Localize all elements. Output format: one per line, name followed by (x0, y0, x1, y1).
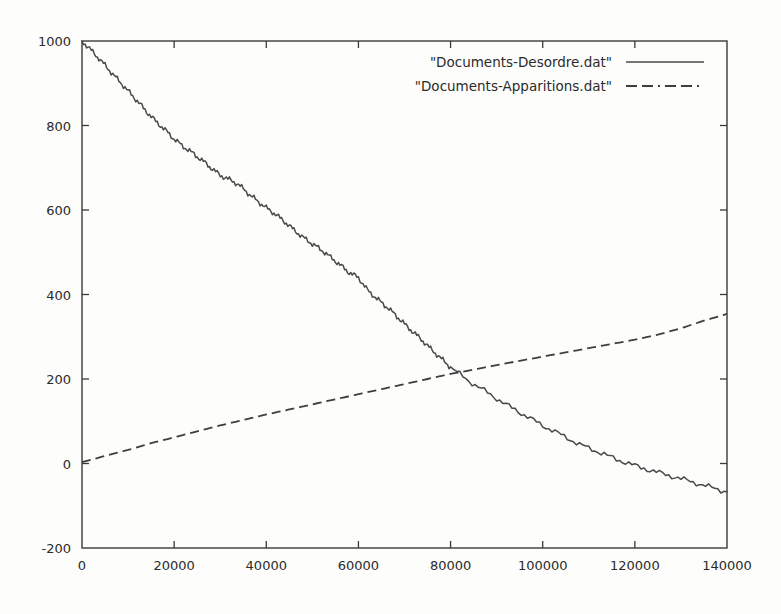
x-tick-label-80000: 80000 (430, 558, 471, 573)
y-tick-label-400: 400 (46, 288, 71, 303)
x-tick-label-40000: 40000 (246, 558, 287, 573)
x-tick-label-20000: 20000 (153, 558, 194, 573)
x-tick-label-0: 0 (78, 558, 86, 573)
plot-frame (82, 41, 727, 548)
x-axis-ticks (174, 41, 635, 548)
y-axis-tick-labels: -20002004006008001000 (38, 34, 71, 556)
x-tick-label-140000: 140000 (702, 558, 752, 573)
y-tick-label-600: 600 (46, 203, 71, 218)
y-tick-label-800: 800 (46, 119, 71, 134)
chart-figure: 020000400006000080000100000120000140000 … (0, 0, 781, 614)
x-tick-label-120000: 120000 (610, 558, 660, 573)
data-series-group (82, 41, 727, 493)
y-tick-label-1000: 1000 (38, 34, 71, 49)
chart-legend: "Documents-Desordre.dat""Documents-Appar… (415, 54, 704, 94)
y-tick-label-200: 200 (46, 372, 71, 387)
y-axis-ticks (82, 126, 727, 464)
x-tick-label-60000: 60000 (338, 558, 379, 573)
series-path-2 (82, 314, 727, 462)
legend-label-2: "Documents-Apparitions.dat" (415, 78, 612, 94)
x-tick-label-100000: 100000 (518, 558, 568, 573)
series-path-1 (82, 41, 727, 493)
line-chart: 020000400006000080000100000120000140000 … (0, 0, 781, 614)
y-tick-label--200: -200 (41, 541, 71, 556)
legend-label-1: "Documents-Desordre.dat" (430, 54, 612, 70)
x-axis-tick-labels: 020000400006000080000100000120000140000 (78, 558, 752, 573)
y-tick-label-0: 0 (63, 457, 71, 472)
